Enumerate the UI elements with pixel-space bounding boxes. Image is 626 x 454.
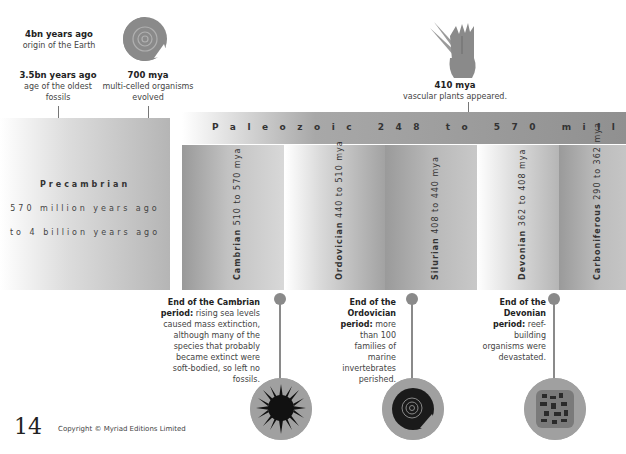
precambrian-block: Precambrian 570 million years ago to 4 b… [0,118,170,290]
extinction-note-devonian: End of the Devonian period: reef-buildin… [470,297,546,363]
period-devonian: Devonian 362 to 408 mya [477,145,559,290]
sea-urchin-icon [250,378,312,440]
event-title: 3.5bn years ago [18,70,98,81]
period-label: Cambrian 510 to 570 mya [233,148,242,280]
precambrian-title: Precambrian [0,180,170,189]
period-label: Ordovician 440 to 510 mya [335,140,344,280]
tick-multicelled [148,106,149,118]
precambrian-range-start: 570 million years ago [0,204,170,213]
period-label: Devonian 362 to 408 mya [518,149,527,281]
tick-vascular-plants [468,102,469,112]
paleozoic-band: Paleozoic 248 to 570 million years ago [182,112,626,144]
extinction-note-cambrian: End of the Cambrian period: rising sea l… [160,297,260,385]
event-desc: multi-celled organisms evolved [102,82,193,102]
coral-icon [524,378,586,440]
event-oldest-fossils: 3.5bn years ago age of the oldest fossil… [18,70,98,103]
event-desc: vascular plants appeared. [403,92,507,101]
period-ordovician: Ordovician 440 to 510 mya [285,145,385,290]
event-desc: age of the oldest fossils [24,82,92,102]
period-label: Carboniferous 290 to 362 mya [593,122,602,280]
copyright-text: Copyright © Myriad Editions Limited [58,425,186,433]
period-carboniferous: Carboniferous 290 to 362 mya [559,145,626,290]
precambrian-range-end: to 4 billion years ago [0,228,170,237]
paleozoic-label: Paleozoic 248 to 570 million years ago [212,122,626,132]
ammonite-icon [120,14,170,64]
event-desc: origin of the Earth [23,41,96,50]
event-title: 700 mya [98,70,198,81]
page-number: 14 [14,414,42,439]
event-multicelled: 700 mya multi-celled organisms evolved [98,70,198,103]
period-silurian: Silurian 408 to 440 mya [385,145,477,290]
vascular-plant-icon [428,18,488,80]
event-origin-earth: 4bn years ago origin of the Earth [14,29,104,51]
tick-oldest-fossils [58,106,59,118]
extinction-note-ordovician: End of the Ordovician period: more than … [330,297,396,385]
marker-stem [553,300,555,386]
marker-stem [279,300,281,386]
marker-stem [411,300,413,386]
ammonite-fossil-icon [382,378,444,440]
period-label: Silurian 408 to 440 mya [431,156,440,280]
event-title: 4bn years ago [14,29,104,40]
event-vascular-plants: 410 mya vascular plants appeared. [400,80,510,102]
event-title: 410 mya [400,80,510,91]
period-cambrian: Cambrian 510 to 570 mya [182,145,284,290]
